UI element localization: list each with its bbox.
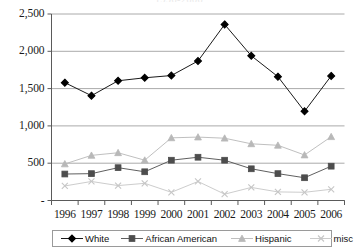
line-chart: 1996-2006 2,5002,0001,5001,000500- 19961… [0, 0, 358, 251]
x-tick-label: 1996 [52, 209, 79, 221]
data-point-marker [195, 178, 201, 184]
y-tick-label: 1,500 [0, 83, 45, 95]
data-point-marker [222, 157, 228, 163]
data-point-marker [69, 235, 76, 242]
data-point-marker [88, 92, 95, 99]
x-tick-label: 2001 [185, 209, 212, 221]
data-point-marker [302, 175, 308, 181]
series-african-american [62, 154, 334, 180]
data-point-marker [89, 171, 95, 177]
data-point-marker [115, 165, 121, 171]
y-tick-label: - [0, 195, 45, 207]
y-tick-label: 2,000 [0, 45, 45, 57]
data-point-marker [61, 79, 68, 86]
data-point-marker [248, 166, 254, 172]
data-point-marker [142, 169, 148, 175]
x-tick-label: 2002 [211, 209, 238, 221]
data-point-marker [222, 191, 228, 197]
x-tick-label: 2000 [158, 209, 185, 221]
data-point-marker [195, 154, 201, 160]
data-point-marker [195, 58, 202, 65]
data-point-marker [168, 157, 174, 163]
legend-item-white[interactable]: White [59, 231, 109, 246]
data-point-marker [141, 74, 148, 81]
data-point-marker [115, 149, 122, 155]
data-point-marker [62, 171, 68, 177]
x-tick-label: 1997 [78, 209, 105, 221]
data-point-marker [129, 236, 135, 242]
x-tick-label: 2005 [291, 209, 318, 221]
legend-label: White [85, 234, 109, 244]
triangle-marker-icon [229, 233, 255, 244]
diamond-marker-icon [59, 233, 85, 244]
legend-item-hispanic[interactable]: Hispanic [229, 231, 291, 246]
data-point-marker [301, 152, 308, 158]
y-tick-label: 2,500 [0, 8, 45, 20]
x-tick-label: 1998 [105, 209, 132, 221]
series-layer [61, 21, 334, 197]
x-tick-label: 1999 [131, 209, 158, 221]
series-misc [62, 178, 334, 197]
x-tick-label: 2003 [238, 209, 265, 221]
data-point-marker [328, 163, 334, 169]
x-tick-label: 2006 [318, 209, 345, 221]
legend-item-misc[interactable]: misc [308, 231, 354, 246]
x-tick-label: 2004 [265, 209, 292, 221]
data-point-marker [168, 72, 175, 79]
data-point-marker [115, 77, 122, 84]
y-tick-label: 500 [0, 157, 45, 169]
square-marker-icon [119, 233, 145, 244]
x-marker-icon [308, 233, 334, 244]
data-point-marker [275, 171, 281, 177]
series-white [61, 21, 334, 115]
series-line [65, 181, 331, 194]
y-tick-label: 1,000 [0, 120, 45, 132]
series-hispanic [61, 133, 334, 167]
legend-label: Hispanic [255, 234, 291, 244]
chart-legend: WhiteAfrican AmericanHispanicmisc [52, 230, 332, 247]
data-point-marker [328, 133, 335, 139]
legend-label: African American [145, 234, 217, 244]
data-point-marker [168, 189, 174, 195]
legend-item-african-american[interactable]: African American [119, 231, 217, 246]
data-point-marker [328, 73, 335, 80]
legend-label: misc [334, 234, 354, 244]
series-line [65, 24, 331, 111]
